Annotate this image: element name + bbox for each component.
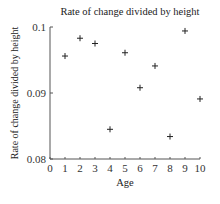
axes: 0.080.090.1012345678910 [27,21,206,174]
plus-marker-icon [62,53,68,59]
y-tick-label: 0.09 [27,87,47,99]
plus-marker-icon [197,96,203,102]
y-tick-label: 0.1 [32,21,46,33]
x-tick-label: 6 [137,162,143,174]
x-tick-label: 2 [77,162,83,174]
plus-marker-icon [167,134,173,140]
scatter-plot: 0.080.090.1012345678910 [0,0,220,204]
x-tick-label: 1 [62,162,68,174]
plus-marker-icon [122,50,128,56]
x-tick-label: 3 [92,162,98,174]
plus-marker-icon [182,28,188,34]
plus-marker-icon [92,41,98,47]
x-tick-label: 4 [107,162,113,174]
plus-marker-icon [152,63,158,69]
x-tick-label: 7 [152,162,158,174]
x-tick-label: 8 [167,162,173,174]
plus-marker-icon [77,35,83,41]
x-tick-label: 0 [47,162,53,174]
x-tick-label: 5 [122,162,128,174]
data-points [62,28,203,140]
y-tick-label: 0.08 [27,153,47,165]
plus-marker-icon [137,85,143,91]
plus-marker-icon [107,126,113,132]
x-tick-label: 10 [195,162,207,174]
x-tick-label: 9 [182,162,188,174]
